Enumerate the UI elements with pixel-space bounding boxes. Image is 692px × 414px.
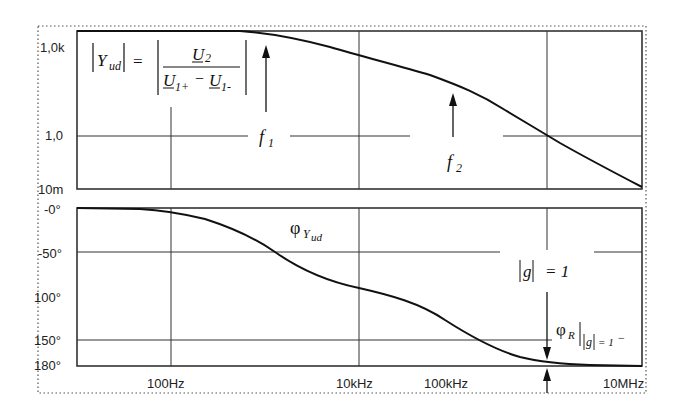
svg-text:1+: 1+ <box>175 80 189 94</box>
x-label-100hz: 100Hz <box>147 376 185 391</box>
svg-text:Y: Y <box>303 227 311 241</box>
svg-text:g: g <box>523 262 532 281</box>
mag-y-label-1: 1,0 <box>45 128 63 143</box>
unity-gain-label: g = 1 <box>520 260 569 282</box>
phase-curve-label: φ Y ud <box>290 218 323 243</box>
phase-y-label-0: -0° <box>44 202 61 217</box>
svg-text:2: 2 <box>456 161 462 175</box>
svg-text:1: 1 <box>268 136 274 150</box>
magnitude-panel: 1,0k 1,0 10m Y ud = U 2 U 1+ − U 1- <box>38 31 642 197</box>
svg-text:R: R <box>567 329 575 341</box>
svg-text:φ: φ <box>290 218 300 238</box>
svg-text:1-: 1- <box>221 80 231 94</box>
svg-text:U: U <box>192 45 206 64</box>
svg-text:Y: Y <box>97 51 108 70</box>
svg-text:= 1: = 1 <box>545 262 569 281</box>
phase-y-label-180: 180° <box>34 358 61 373</box>
x-label-10mhz: 10MHz <box>603 376 644 391</box>
svg-text:=: = <box>133 52 143 71</box>
phase-y-label-150: 150° <box>34 333 61 348</box>
phase-y-label-100: 100° <box>34 290 61 305</box>
x-label-100khz: 100kHz <box>424 376 468 391</box>
svg-text:= 1: = 1 <box>598 336 614 348</box>
svg-text:ud: ud <box>311 231 323 243</box>
svg-text:−: − <box>618 331 625 345</box>
phase-y-label-50: -50° <box>38 246 62 261</box>
mag-y-label-10m: 10m <box>38 182 63 197</box>
svg-text:φ: φ <box>556 320 566 339</box>
svg-text:f: f <box>259 127 267 147</box>
phase-panel: -0° -50° 100° 150° 180° φ Y ud g = 1 φ R <box>34 202 642 393</box>
svg-text:f: f <box>447 152 455 172</box>
f1-marker: f 1 <box>259 45 274 150</box>
svg-text:−: − <box>195 70 204 87</box>
svg-text:2: 2 <box>205 51 211 65</box>
f2-marker: f 2 <box>447 93 462 175</box>
mag-y-label-1k: 1,0k <box>40 40 65 55</box>
svg-text:g: g <box>586 335 592 349</box>
svg-text:ud: ud <box>109 59 122 73</box>
gain-formula: Y ud = U 2 U 1+ − U 1- <box>93 40 246 95</box>
x-label-10khz: 10kHz <box>336 376 373 391</box>
bode-plot: 1,0k 1,0 10m Y ud = U 2 U 1+ − U 1- <box>0 0 692 414</box>
